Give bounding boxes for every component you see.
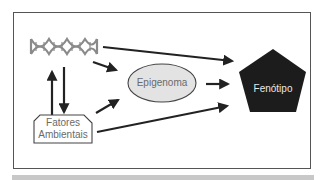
bottom-bar <box>12 175 314 180</box>
environment-label-line1: Fatores <box>34 117 92 129</box>
arrow-dna-to-epigenome <box>93 62 116 70</box>
phenotype-label: Fenótipo <box>240 83 306 95</box>
arrow-dna-to-phenotype <box>103 47 232 61</box>
dna-helix-icon <box>31 39 97 54</box>
epigenome-label: Epigenoma <box>128 77 196 89</box>
environment-label-line2: Ambientais <box>34 129 92 141</box>
arrow-environment-to-epigenome <box>96 100 118 113</box>
phenotype-node <box>239 49 306 112</box>
environment-label: Fatores Ambientais <box>34 117 92 141</box>
arrow-environment-to-phenotype <box>97 106 227 132</box>
